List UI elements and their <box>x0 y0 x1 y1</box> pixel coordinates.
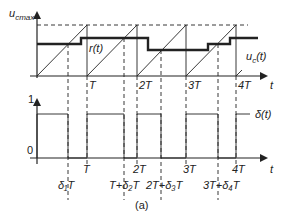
top-plot <box>30 11 268 80</box>
top-x-label: t <box>270 79 274 91</box>
duty-signal <box>37 114 250 158</box>
control-label: uc(t) <box>246 50 267 65</box>
switch-label-2: T+δ₂T <box>109 179 140 191</box>
bottom-y-arrow-icon <box>33 98 41 106</box>
ramp-label: r(t) <box>89 42 103 54</box>
delta-label: δ(t) <box>255 108 272 120</box>
bottom-x-label: t <box>270 163 274 175</box>
figure-caption: (a) <box>135 199 148 211</box>
control-signal <box>37 38 258 50</box>
y-axis-label: ucmax <box>9 7 35 22</box>
bottom-plot <box>30 98 268 164</box>
bottom-tick-2T: 2T <box>132 163 147 175</box>
bottom-tick-4T: 4T <box>232 163 246 175</box>
bottom-tick-T: T <box>83 163 91 175</box>
switch-label-1: δ₁T <box>58 179 76 191</box>
top-tick-T: T <box>89 79 97 91</box>
tick-1: 1 <box>28 93 34 105</box>
switch-guides <box>68 38 236 200</box>
top-tick-3T: 3T <box>188 79 202 91</box>
top-x-arrow-icon <box>260 72 268 80</box>
pwm-diagram: ucmax r(t) uc(t) T 2T 3T 4T t 1 0 δ(t) T… <box>0 0 287 219</box>
switch-label-3: 2T+δ₃T <box>145 179 184 191</box>
bottom-x-arrow-icon <box>260 154 268 162</box>
switch-label-4: 3T+δ₄T <box>203 179 241 191</box>
top-tick-4T: 4T <box>238 79 252 91</box>
top-tick-2T: 2T <box>138 79 153 91</box>
tick-0: 0 <box>27 144 33 156</box>
bottom-tick-3T: 3T <box>183 163 197 175</box>
